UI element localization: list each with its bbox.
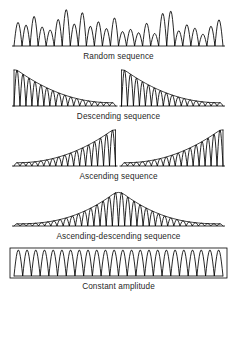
caption-ascending-descending-sequence: Ascending-descending sequence [0, 232, 237, 242]
plot-constant-amplitude [0, 242, 237, 282]
plot-descending-sequence [0, 62, 237, 112]
caption-ascending-sequence: Ascending sequence [0, 172, 237, 182]
waveform-figure: Random sequence Descending sequence Asce… [0, 0, 237, 350]
plot-random-sequence [0, 0, 237, 52]
panel-ascending-descending-sequence: Ascending-descending sequence [0, 182, 237, 242]
panel-ascending-sequence: Ascending sequence [0, 122, 237, 182]
caption-random-sequence: Random sequence [0, 52, 237, 62]
panel-descending-sequence: Descending sequence [0, 62, 237, 122]
plot-ascending-sequence [0, 122, 237, 172]
caption-descending-sequence: Descending sequence [0, 112, 237, 122]
panel-random-sequence: Random sequence [0, 0, 237, 62]
plot-ascending-descending-sequence [0, 182, 237, 232]
panel-constant-amplitude: Constant amplitude [0, 242, 237, 292]
caption-constant-amplitude: Constant amplitude [0, 282, 237, 292]
